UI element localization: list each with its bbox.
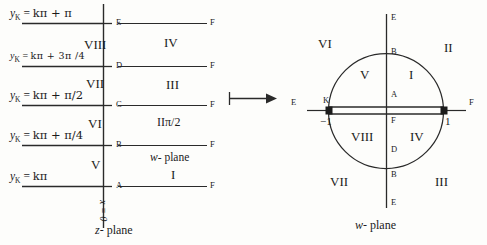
w-plane-point-minus1-dot: [326, 107, 333, 115]
w-region-II: II: [444, 41, 453, 54]
arrow-head: [266, 94, 277, 104]
z-region-VIII: VIII: [84, 38, 106, 51]
w-point-value-plus1: 1: [445, 116, 451, 127]
w-plane-point-plus1-dot: [441, 107, 448, 115]
z-region-II-pi-over-2: IIπ/2: [157, 116, 180, 128]
w-axis-label-D: D: [391, 145, 397, 154]
w-axis-label-E-left: E: [291, 98, 296, 107]
z-point-label-F-D: F: [210, 61, 215, 70]
eq-sub-B: K: [15, 135, 20, 144]
w-region-V: V: [360, 68, 369, 81]
z-point-label-F-A: F: [210, 181, 215, 190]
w-axis-label-E-bottom: E: [391, 198, 396, 207]
z-line-equation-C: yK = kπ + π/2: [10, 90, 83, 104]
w-region-IV: IV: [410, 130, 424, 143]
w-axis-label-F: F: [391, 116, 396, 125]
w-region-VIII: VIII: [351, 130, 373, 143]
w-plane-caption-italic: w: [355, 218, 363, 232]
z-region-VI: VI: [88, 117, 102, 130]
eq-rhs-C: kπ + π/2: [33, 88, 83, 102]
eq-rhs-D: kπ + 3π /4: [31, 50, 86, 61]
eq-sub-E: K: [15, 13, 20, 22]
eq-sign-C: =: [23, 89, 30, 101]
w-axis-label-A: A: [391, 90, 397, 99]
z-point-label-E: E: [116, 18, 121, 27]
figure-canvas: yK = kπ + π yK = kπ + 3π /4 yK = kπ + π/…: [0, 0, 487, 245]
diagram-linework: [0, 0, 487, 245]
z-line-equation-A: yK = kπ: [10, 171, 47, 185]
z-region-III: III: [166, 78, 179, 91]
z-region-I: I: [171, 168, 175, 181]
eq-rhs-A: kπ: [33, 169, 48, 183]
w-point-value-minus1: −1: [320, 116, 332, 127]
eq-sign-E: =: [23, 7, 30, 19]
eq-sign-A: =: [23, 170, 30, 182]
eq-rhs-E: kπ + π: [33, 6, 72, 20]
w-region-III: III: [435, 175, 448, 188]
w-plane-caption-rest: - plane: [363, 218, 396, 232]
w-axis-label-B-top: B: [391, 47, 397, 56]
z-plane-caption-rest: - plane: [100, 223, 133, 237]
eq-sub-C: K: [15, 95, 20, 104]
z-point-label-A: A: [116, 181, 122, 190]
z-line-equation-D: yK = kπ + 3π /4: [10, 51, 85, 64]
z-plane-inner-w-plane-caption: w- plane: [150, 152, 189, 164]
w-plane-caption: w- plane: [355, 219, 396, 231]
eq-sub-D: K: [14, 55, 19, 64]
w-point-label-K: K: [323, 96, 329, 105]
z-point-label-F-B: F: [210, 140, 215, 149]
z-line-equation-B: yK = kπ + π/4: [10, 130, 83, 144]
z-point-label-F-E: F: [210, 18, 215, 27]
eq-sub-A: K: [15, 176, 20, 185]
inner-caption-italic: w: [150, 151, 158, 163]
w-region-VI: VI: [318, 37, 332, 50]
z-plane-caption: z- plane: [95, 224, 133, 236]
inner-caption-rest: - plane: [158, 151, 190, 163]
eq-sign-B: =: [23, 129, 30, 141]
w-axis-label-F-right: F: [469, 98, 474, 107]
w-axis-label-E-top: E: [391, 13, 396, 22]
z-point-label-C: C: [116, 100, 122, 109]
z-region-VII: VII: [86, 77, 104, 90]
w-axis-label-B-bottom: B: [391, 170, 397, 179]
z-point-label-B: B: [116, 140, 122, 149]
z-line-equation-E: yK = kπ + π: [10, 8, 72, 22]
z-point-label-D: D: [116, 61, 122, 70]
z-region-IV: IV: [164, 36, 178, 49]
w-region-VII: VII: [330, 175, 348, 188]
mapping-arrow-group: [229, 92, 277, 105]
z-region-V: V: [91, 158, 100, 171]
z-point-label-F-C: F: [210, 100, 215, 109]
eq-rhs-B: kπ + π/4: [33, 128, 83, 142]
eq-sign-D: =: [22, 50, 28, 61]
w-region-I: I: [409, 68, 413, 81]
